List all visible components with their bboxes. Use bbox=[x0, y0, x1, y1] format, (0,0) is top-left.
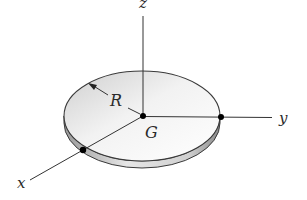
x-axis-label: x bbox=[17, 174, 26, 192]
y-axis-label: y bbox=[278, 109, 288, 127]
x-axis-rim-point bbox=[80, 147, 86, 153]
z-axis-label: z bbox=[138, 0, 147, 12]
center-point-g bbox=[140, 113, 146, 119]
radius-label: R bbox=[109, 91, 122, 110]
y-axis-rim-point bbox=[218, 114, 224, 120]
center-label: G bbox=[145, 123, 158, 142]
disk-diagram: z y x R G bbox=[0, 0, 307, 200]
